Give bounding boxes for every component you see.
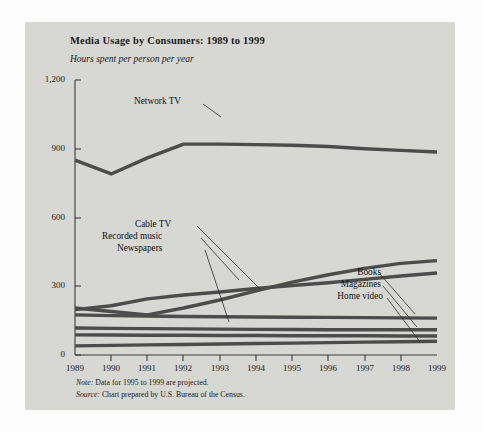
series-line-magazines [75,335,437,336]
y-tick-label-1200: 1,200 [31,74,65,84]
series-line-home-video [75,341,437,346]
x-tick-label-1993: 1993 [203,363,237,373]
leader-magazines [383,286,417,327]
leader-recorded-music [201,238,239,280]
chart-note: Note: Data for 1995 to 1999 are projecte… [76,378,209,387]
series-label-books: Books [335,267,381,277]
series-label-network-tv: Network TV [134,96,181,106]
leader-network-tv [203,104,221,117]
x-tick-label-1999: 1999 [420,363,454,373]
x-tick-label-1994: 1994 [239,363,273,373]
x-tick-label-1996: 1996 [311,363,345,373]
line-chart-plot [25,22,455,410]
x-tick-label-1997: 1997 [348,363,382,373]
series-label-home-video: Home video [309,291,383,301]
series-label-cable-tv: Cable TV [135,219,171,229]
x-tick-label-1995: 1995 [275,363,309,373]
x-tick-label-1990: 1990 [94,363,128,373]
y-tick-label-300: 300 [31,280,65,290]
series-label-magazines: Magazines [317,279,381,289]
leader-newspapers [205,250,229,322]
x-axis-ticks [111,355,401,361]
y-tick-label-900: 900 [31,143,65,153]
note-prefix: Note: [76,378,93,387]
series-line-books [75,328,437,330]
note-text: Data for 1995 to 1999 are projected. [95,378,208,387]
leader-books [380,274,415,314]
chart-source: Source: Chart prepared by U.S. Bureau of… [76,390,245,399]
leader-cable-tv [197,226,261,290]
x-tick-label-1992: 1992 [166,363,200,373]
chart-panel: Media Usage by Consumers: 1989 to 1999 H… [25,22,455,410]
leader-lines [197,104,420,342]
y-tick-label-0: 0 [31,349,65,359]
source-text: Chart prepared by U.S. Bureau of the Cen… [102,390,245,399]
source-prefix: Source: [76,390,100,399]
y-tick-label-600: 600 [31,212,65,222]
x-tick-label-1998: 1998 [384,363,418,373]
series-label-recorded-music: Recorded music [102,231,162,241]
x-tick-label-1991: 1991 [130,363,164,373]
series-line-newspapers [75,315,437,318]
series-line-network-tv [75,144,437,174]
x-tick-label-1989: 1989 [58,363,92,373]
series-label-newspapers: Newspapers [117,243,162,253]
